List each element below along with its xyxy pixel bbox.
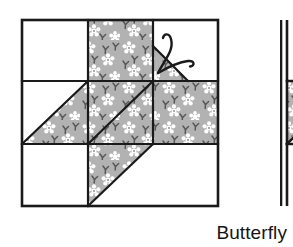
quilt-block-figure: Butterfly (0, 0, 293, 247)
quilt-diagram-svg (0, 0, 293, 247)
butterfly-block-secondary (280, 20, 293, 206)
butterfly-block-primary (22, 20, 218, 206)
figure-caption: Butterfly (216, 221, 287, 245)
patch-top-center (88, 20, 153, 81)
